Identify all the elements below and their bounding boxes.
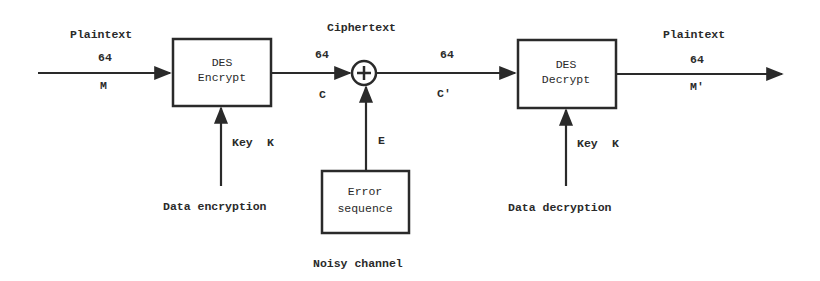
error-block-line2: sequence (337, 202, 392, 215)
error-symbol-e: E (378, 134, 385, 147)
des-encrypt-block: DES Encrypt (173, 39, 271, 106)
encrypt-block-line2: Encrypt (198, 71, 246, 84)
input-symbol-m: M (100, 79, 107, 92)
error-sequence-block: Error sequence (322, 171, 409, 233)
input-plaintext-title: Plaintext (70, 28, 132, 41)
ciphertext-bits-out: 64 (440, 48, 454, 61)
ciphertext-title: Ciphertext (327, 21, 396, 34)
output-plaintext-title: Plaintext (663, 28, 725, 41)
decrypt-key-label: Key (577, 137, 598, 150)
data-encryption-caption: Data encryption (163, 200, 267, 213)
xor-node-icon (352, 61, 376, 85)
encrypt-key-label: Key (232, 136, 253, 149)
error-block-line1: Error (348, 185, 383, 198)
ciphertext-symbol-c: C (319, 88, 326, 101)
output-symbol-m-prime: M' (690, 80, 704, 93)
output-bits-label: 64 (690, 53, 704, 66)
des-decrypt-block: DES Decrypt (518, 40, 616, 108)
encrypt-block-line1: DES (212, 56, 233, 69)
decrypt-key-symbol: K (612, 137, 619, 150)
input-bits-label: 64 (98, 51, 112, 64)
decrypt-block-line2: Decrypt (542, 73, 590, 86)
des-noisy-channel-diagram: Plaintext 64 M DES Encrypt Key K Data en… (0, 0, 820, 281)
ciphertext-bits-in: 64 (315, 48, 329, 61)
data-decryption-caption: Data decryption (508, 201, 612, 214)
noisy-channel-caption: Noisy channel (313, 257, 403, 270)
encrypt-key-symbol: K (267, 136, 274, 149)
decrypt-block-line1: DES (556, 58, 577, 71)
diagram-svg: Plaintext 64 M DES Encrypt Key K Data en… (0, 0, 820, 281)
ciphertext-symbol-c-prime: C' (437, 87, 451, 100)
